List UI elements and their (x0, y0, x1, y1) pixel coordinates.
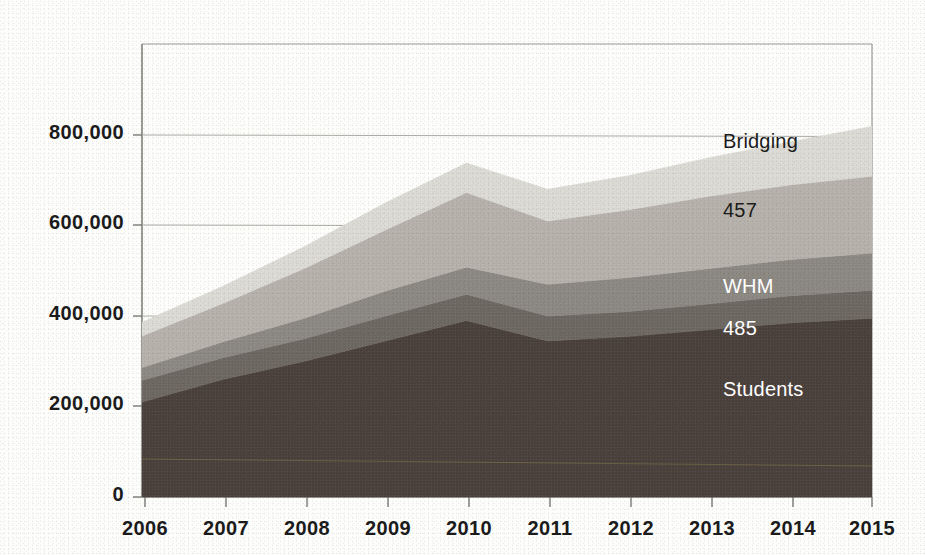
area-series-group (142, 126, 872, 497)
stacked-area-chart: 800,000600,000400,000200,0000 2006200720… (0, 0, 925, 555)
x-axis-tick-label: 2014 (748, 517, 838, 540)
band-label-485: 485 (723, 317, 757, 340)
x-axis-tick-label: 2012 (586, 517, 676, 540)
y-axis-tick-label: 0 (112, 483, 124, 506)
band-label-whm: WHM (723, 275, 774, 298)
x-axis-tick-label: 2007 (181, 517, 271, 540)
x-axis-tick-label: 2006 (100, 517, 190, 540)
x-axis-tick-label: 2015 (827, 517, 917, 540)
chart-plot-area (0, 0, 925, 555)
x-axis-tick-label: 2013 (667, 517, 757, 540)
x-axis-tick-label: 2011 (505, 517, 595, 540)
y-axis-tick-label: 600,000 (49, 211, 124, 234)
band-label-students: Students (723, 378, 804, 401)
y-axis-tick-label: 200,000 (49, 392, 124, 415)
band-label-457: 457 (723, 199, 757, 222)
x-axis-tick-label: 2008 (262, 517, 352, 540)
band-label-bridging: Bridging (723, 130, 798, 153)
y-axis-tick-label: 800,000 (49, 121, 124, 144)
x-axis-tick-label: 2009 (343, 517, 433, 540)
y-axis-tick-label: 400,000 (49, 302, 124, 325)
x-axis-tick-label: 2010 (424, 517, 514, 540)
